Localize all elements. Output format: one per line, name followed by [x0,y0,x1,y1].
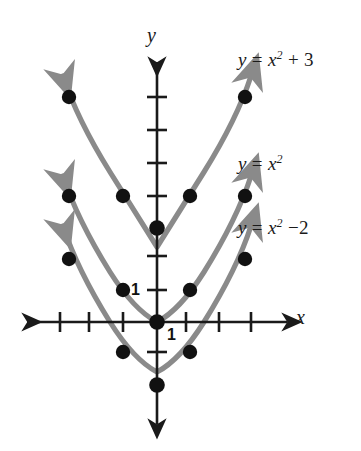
data-point [62,90,76,104]
curve1-base: x [268,49,277,70]
x-axis-label: x [296,306,305,329]
data-point [183,345,197,359]
curve1-tail: + 3 [288,49,314,70]
data-point [183,189,197,203]
curve2-equals: = [252,153,263,174]
data-point [149,377,165,393]
curve2-exponent: 2 [277,152,283,166]
data-point [183,283,197,297]
curve-label-y-equals-x2: y = x2 [238,152,283,175]
y-tick-label-one: 1 [131,281,140,299]
curve2-lhs: y [238,153,247,174]
curve1-equals: = [252,49,263,70]
data-point [116,283,130,297]
data-point [62,189,76,203]
y-axis-label: y [147,24,156,47]
data-point [62,252,76,266]
x-tick-label-one: 1 [167,326,176,344]
curve3-base: x [268,217,277,238]
data-point [149,220,165,236]
data-point [116,345,130,359]
data-point [238,90,252,104]
curve-label-y-equals-x2-minus-2: y = x2 −2 [238,216,309,239]
curve1-exponent: 2 [277,48,283,62]
curve2-base: x [268,153,277,174]
curve3-exponent: 2 [277,216,283,230]
curve3-tail: −2 [288,217,309,238]
data-point [116,189,130,203]
curve-label-y-equals-x2-plus-3: y = x2 + 3 [238,48,314,71]
graph-figure: y x 1 1 y = x2 + 3 y = x2 y = x2 −2 [0,0,361,451]
curve3-equals: = [252,217,263,238]
data-point [149,314,165,330]
curve3-lhs: y [238,217,247,238]
data-point [238,189,252,203]
curve1-lhs: y [238,49,247,70]
data-point [238,252,252,266]
